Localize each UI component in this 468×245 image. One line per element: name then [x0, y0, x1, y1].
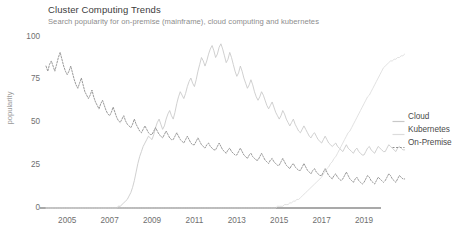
chart-figure: Cluster Computing Trends Search populari…	[0, 0, 468, 245]
series-line-on-premise	[46, 52, 405, 184]
legend-item-kubernetes[interactable]: Kubernetes	[392, 123, 452, 136]
chart-legend: CloudKubernetesOn-Premise	[392, 110, 452, 149]
legend-swatch-icon	[392, 138, 405, 147]
legend-label: On-Premise	[408, 138, 452, 147]
legend-swatch-icon	[392, 125, 405, 134]
legend-label: Cloud	[408, 112, 429, 121]
series-line-kubernetes	[46, 54, 405, 208]
series-line-cloud	[46, 44, 405, 208]
legend-swatch-icon	[392, 112, 405, 121]
legend-item-cloud[interactable]: Cloud	[392, 110, 452, 123]
legend-label: Kubernetes	[408, 125, 450, 134]
legend-item-on-premise[interactable]: On-Premise	[392, 136, 452, 149]
